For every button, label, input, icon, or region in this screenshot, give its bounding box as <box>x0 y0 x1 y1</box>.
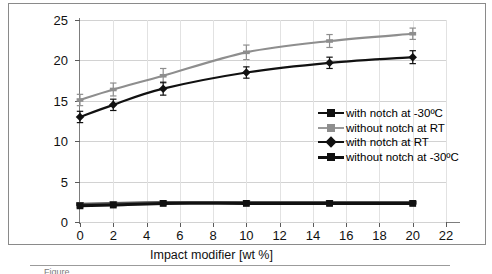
x-tick-label: 6 <box>176 228 183 243</box>
x-tick-label: 18 <box>372 228 386 243</box>
marker-x <box>243 51 250 55</box>
marker-diamond <box>76 113 84 121</box>
x-tick-label: 20 <box>405 228 419 243</box>
x-tick-label: 22 <box>439 228 453 243</box>
y-tick-label: 20 <box>28 53 68 68</box>
x-marker-icon <box>318 122 344 134</box>
y-tick-label: 10 <box>28 134 68 149</box>
marker-diamond <box>408 53 416 61</box>
marker-diamond <box>159 84 167 92</box>
marker-square <box>243 200 250 207</box>
square-marker-icon <box>318 107 344 119</box>
legend-item-without-notch-rt[interactable]: without notch at RT <box>318 121 459 136</box>
y-tick-label: 25 <box>28 13 68 28</box>
x-tick <box>446 222 447 227</box>
y-tick-label: 0 <box>28 215 68 230</box>
x-tick-label: 16 <box>339 228 353 243</box>
chart-legend: with notch at -30ºC without notch at RT … <box>318 106 459 164</box>
legend-item-without-notch-minus30[interactable]: without notch at -30ºC <box>318 150 459 165</box>
marker-square <box>409 200 416 207</box>
caption-divider <box>30 265 450 266</box>
marker-x <box>77 98 84 102</box>
marker-x <box>409 32 416 36</box>
x-tick-label: 0 <box>76 228 83 243</box>
marker-diamond <box>325 59 333 67</box>
marker-square <box>77 202 84 209</box>
legend-label: without notch at -30ºC <box>346 150 459 165</box>
diamond-marker-icon <box>318 136 344 148</box>
scan-frame-right <box>485 3 486 245</box>
gridline-y <box>80 222 446 223</box>
marker-square <box>110 202 117 209</box>
x-tick-label: 10 <box>239 228 253 243</box>
x-tick-label: 2 <box>110 228 117 243</box>
x-tick-label: 12 <box>272 228 286 243</box>
marker-x <box>160 74 167 78</box>
y-tick-label: 5 <box>28 174 68 189</box>
scan-frame-top <box>8 3 486 4</box>
marker-x <box>110 88 117 92</box>
figure-caption: Figure <box>44 268 244 274</box>
marker-x <box>326 39 333 43</box>
marker-diamond <box>242 68 250 76</box>
x-tick-label: 4 <box>143 228 150 243</box>
x-axis-title: Impact modifier [wt %] <box>150 248 273 262</box>
y-tick-label: 15 <box>28 93 68 108</box>
marker-square <box>326 200 333 207</box>
x-tick-label: 14 <box>306 228 320 243</box>
scan-frame-left <box>8 3 9 245</box>
screenshot-root: Charpy impact strength [kJ/m²] Impact mo… <box>0 0 492 274</box>
legend-item-with-notch-minus30[interactable]: with notch at -30ºC <box>318 106 459 121</box>
legend-label: with notch at RT <box>346 135 429 150</box>
legend-label: without notch at RT <box>346 121 445 136</box>
marker-square <box>160 200 167 207</box>
scan-frame-bottom <box>8 244 486 245</box>
marker-diamond <box>109 101 117 109</box>
legend-item-with-notch-rt[interactable]: with notch at RT <box>318 135 459 150</box>
x-tick-label: 8 <box>209 228 216 243</box>
dash-marker-icon <box>318 151 344 163</box>
legend-label: with notch at -30ºC <box>346 106 443 121</box>
